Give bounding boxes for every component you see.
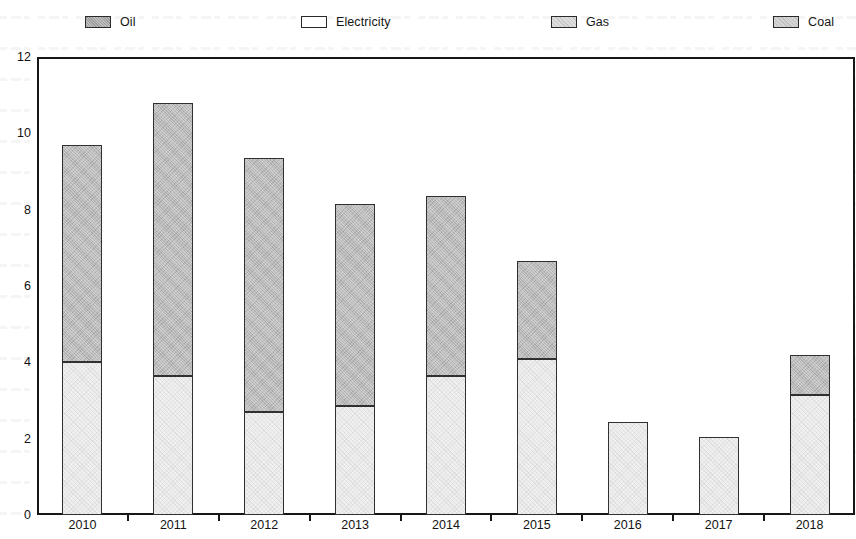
stacked-bar-chart: OilElectricityGasCoal 024681012 20102011…: [0, 0, 856, 539]
bar-group-2018[interactable]: [790, 57, 830, 515]
y-axis-tick-label: 2: [5, 433, 31, 445]
x-axis-tick-label: 2016: [614, 518, 642, 532]
legend-label: Oil: [120, 15, 136, 29]
bar-segment-electricity-2017[interactable]: [699, 437, 739, 515]
bar-segment-oil-2013[interactable]: [335, 204, 375, 406]
legend-swatch-coal-icon: [773, 16, 799, 28]
y-axis-tick-label: 0: [5, 509, 31, 521]
plot-area: [37, 57, 855, 515]
bar-group-2014[interactable]: [426, 57, 466, 515]
bar-segment-oil-2012[interactable]: [244, 158, 284, 412]
bar-segment-electricity-2011[interactable]: [153, 376, 193, 515]
x-axis-tick-label: 2010: [69, 518, 97, 532]
bar-group-2015[interactable]: [517, 57, 557, 515]
x-axis-tick-label: 2012: [250, 518, 278, 532]
y-axis-tick-label: 4: [5, 356, 31, 368]
legend-swatch-oil-icon: [85, 16, 111, 28]
y-axis-tick-label: 12: [5, 51, 31, 63]
x-axis-tick-label: 2015: [523, 518, 551, 532]
x-axis-tick-label: 2014: [432, 518, 460, 532]
legend-swatch-electricity-icon: [301, 16, 327, 28]
y-axis-tick-label: 8: [5, 204, 31, 216]
bar-group-2012[interactable]: [244, 57, 284, 515]
legend-item-coal[interactable]: Coal: [773, 12, 834, 32]
legend-label: Gas: [586, 15, 609, 29]
chart-legend: OilElectricityGasCoal: [0, 12, 856, 34]
bar-segment-oil-2014[interactable]: [426, 196, 466, 375]
bar-group-2010[interactable]: [62, 57, 102, 515]
bar-segment-electricity-2010[interactable]: [62, 362, 102, 515]
y-axis-tick-label: 6: [5, 280, 31, 292]
x-axis-tick-label: 2013: [341, 518, 369, 532]
legend-label: Coal: [808, 15, 834, 29]
x-axis-tick-label: 2011: [160, 518, 187, 532]
bar-segment-electricity-2015[interactable]: [517, 359, 557, 515]
legend-label: Electricity: [336, 15, 391, 29]
legend-item-electricity[interactable]: Electricity: [301, 12, 391, 32]
bar-group-2017[interactable]: [699, 57, 739, 515]
bar-segment-oil-2018[interactable]: [790, 355, 830, 395]
legend-swatch-gas-icon: [551, 16, 577, 28]
x-axis-tick-label: 2018: [796, 518, 824, 532]
bar-group-2016[interactable]: [608, 57, 648, 515]
bar-segment-electricity-2012[interactable]: [244, 412, 284, 515]
bar-segment-oil-2011[interactable]: [153, 103, 193, 376]
bar-segment-oil-2010[interactable]: [62, 145, 102, 363]
bar-group-2011[interactable]: [153, 57, 193, 515]
x-axis-tick-label: 2017: [705, 518, 733, 532]
bar-segment-oil-2015[interactable]: [517, 261, 557, 358]
bar-segment-electricity-2018[interactable]: [790, 395, 830, 515]
legend-item-oil[interactable]: Oil: [85, 12, 136, 32]
bar-segment-electricity-2013[interactable]: [335, 406, 375, 515]
bar-group-2013[interactable]: [335, 57, 375, 515]
bar-segment-electricity-2014[interactable]: [426, 376, 466, 515]
y-axis: 024681012: [0, 57, 31, 515]
y-axis-tick-label: 10: [5, 127, 31, 139]
bar-segment-electricity-2016[interactable]: [608, 422, 648, 516]
legend-item-gas[interactable]: Gas: [551, 12, 609, 32]
x-axis: 201020112012201320142015201620172018: [37, 518, 855, 538]
